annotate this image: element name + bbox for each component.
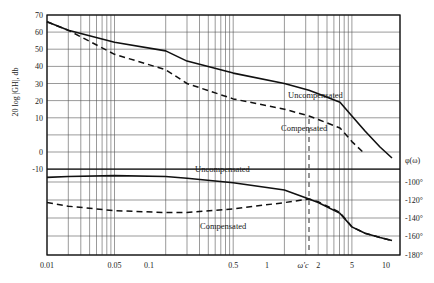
ytick-10: 10: [35, 114, 43, 123]
curve-phase-compensated: [47, 199, 392, 241]
x-axis: 0.01 0.05 0.1 0.5 1 ω'c 2 5 10: [40, 261, 390, 270]
phase-tick-160: -160°: [405, 232, 423, 241]
phase-tick-120: -120°: [405, 196, 423, 205]
annotation-magnitude-compensated: Compensated: [281, 123, 328, 133]
annotation-phase-compensated: Compensated: [200, 221, 247, 231]
magnitude-axis-title: 20 log |GH|, db: [11, 68, 20, 117]
ytick-70: 70: [35, 11, 43, 20]
ytick-0: 0: [39, 148, 43, 157]
ytick-40: 40: [35, 62, 43, 71]
annotation-phase-uncompensated: Uncompensated: [195, 164, 251, 174]
bode-plot-figure: 70 60 50 40 30 20 10 0 -10 20 log |GH|, …: [0, 0, 434, 283]
ytick-30: 30: [35, 80, 43, 89]
ytick-20: 20: [35, 97, 43, 106]
xtick-0-05: 0.05: [108, 261, 122, 270]
ytick-60: 60: [35, 28, 43, 37]
phase-axis-title: φ(ω): [405, 156, 421, 165]
xtick-2: 2: [316, 261, 320, 270]
xtick-0-01: 0.01: [40, 261, 54, 270]
phase-y-axis: φ(ω) -100° -120° -140° -160° -180°: [405, 156, 423, 260]
ytick-neg10: -10: [32, 165, 43, 174]
phase-tick-140: -140°: [405, 214, 423, 223]
curve-magnitude-compensated: [47, 22, 365, 154]
xtick-10: 10: [382, 261, 390, 270]
magnitude-y-axis: 70 60 50 40 30 20 10 0 -10: [32, 11, 43, 174]
xtick-5: 5: [350, 261, 354, 270]
phase-tick-180: -180°: [405, 251, 423, 260]
xtick-1: 1: [265, 261, 269, 270]
xtick-0-1: 0.1: [144, 261, 154, 270]
phase-tick-100: -100°: [405, 178, 423, 187]
xtick-0-5: 0.5: [228, 261, 238, 270]
annotation-magnitude-uncompensated: Uncompensated: [288, 90, 344, 100]
ytick-50: 50: [35, 45, 43, 54]
xtick-omega-c: ω'c: [298, 261, 309, 270]
